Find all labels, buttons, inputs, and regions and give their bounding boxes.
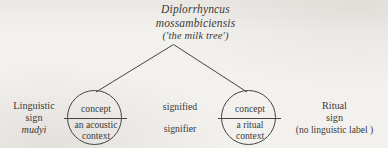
ritual-circle-concept: concept [211,104,289,115]
species-genus: Diplorrhyncus [118,3,273,17]
linguistic-sign-circle: concept an acoustic context [67,90,122,145]
species-epithet: mossambiciensis [118,17,273,31]
linguistic-circle-concept: concept [57,104,135,115]
ritual-sign-label-line-2: sign [281,112,388,124]
ritual-sign-circle: concept a ritual context [221,90,276,145]
species-name: Diplorrhyncus mossambiciensis ('the milk… [118,3,273,43]
ritual-sign-label: Ritual sign (no linguistic label ) [281,100,388,135]
branch-left-line [96,45,174,93]
linguistic-circle-context-line-2: context [57,131,135,142]
semiotic-tree-diagram: Diplorrhyncus mossambiciensis ('the milk… [0,0,388,148]
term-signified: signified [140,101,220,113]
saussurean-terms: signified signifier [140,101,220,134]
ritual-sign-label-line-1: Ritual [281,100,388,112]
linguistic-circle-context: an acoustic context [57,120,135,141]
ritual-sign-label-line-3: (no linguistic label ) [281,124,388,135]
species-common-name: ('the milk tree') [118,30,273,42]
term-signifier: signifier [140,123,220,135]
branch-right-line [174,45,248,93]
terms-spacer [140,113,220,123]
ritual-circle-context: a ritual context [211,120,289,141]
ritual-circle-context-line-2: context [211,131,289,142]
